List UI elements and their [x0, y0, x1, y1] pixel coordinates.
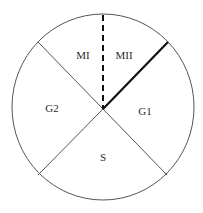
cell-cycle-diagram: MI MII G2 G1 S — [0, 0, 203, 213]
label-m2: MII — [115, 49, 132, 61]
label-s: S — [100, 151, 106, 163]
thick-divider-g1-m2 — [103, 42, 168, 109]
label-g2: G2 — [45, 102, 58, 114]
divider-g2-s — [38, 109, 103, 175]
label-m1: MI — [76, 49, 90, 61]
divider-g2-m1 — [38, 42, 103, 109]
divider-s-g1 — [103, 109, 167, 175]
label-g1: G1 — [138, 105, 151, 117]
